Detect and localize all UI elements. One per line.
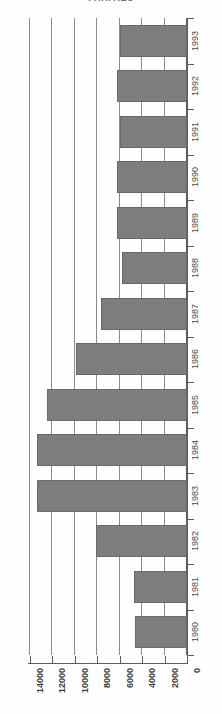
bar-1980[interactable] <box>135 616 187 648</box>
bar-1987[interactable] <box>101 298 187 330</box>
category-tick-end <box>187 655 194 656</box>
value-label-4000: 4000 <box>147 668 159 708</box>
value-label-8000: 8000 <box>102 668 114 708</box>
value-label-0: 0 <box>192 668 204 708</box>
category-axis <box>187 18 188 663</box>
category-label-1982: 1982 <box>190 518 202 564</box>
value-label-12000: 12000 <box>57 668 69 708</box>
bar-row <box>30 25 187 57</box>
gridline-4000 <box>141 18 142 655</box>
bar-row <box>30 161 187 193</box>
category-label-1985: 1985 <box>190 382 202 428</box>
value-tick-14000 <box>30 656 31 664</box>
bar-1983[interactable] <box>37 480 187 512</box>
value-label-14000: 14000 <box>35 668 47 708</box>
gridline-2000 <box>164 18 165 655</box>
gridline-14000 <box>29 18 30 655</box>
bar-row <box>30 70 187 102</box>
category-label-1989: 1989 <box>190 200 202 246</box>
bar-row <box>30 343 187 375</box>
category-label-1991: 1991 <box>190 109 202 155</box>
gridline-12000 <box>51 18 52 655</box>
bar-1993[interactable] <box>120 25 187 57</box>
category-label-1992: 1992 <box>190 63 202 109</box>
bar-row <box>30 616 187 648</box>
chart-root: PARITIES 1993199219911990198919881987198… <box>0 0 222 714</box>
value-tick-2000 <box>165 656 166 664</box>
bar-row <box>30 252 187 284</box>
category-label-1988: 1988 <box>190 245 202 291</box>
bar-row <box>30 571 187 603</box>
bar-1988[interactable] <box>122 252 187 284</box>
value-tick-12000 <box>52 656 53 664</box>
value-label-2000: 2000 <box>170 668 182 708</box>
value-label-10000: 10000 <box>80 668 92 708</box>
bar-1985[interactable] <box>47 389 187 421</box>
bar-1991[interactable] <box>120 116 187 148</box>
value-tick-6000 <box>120 656 121 664</box>
value-tick-0 <box>187 656 188 664</box>
category-label-1993: 1993 <box>190 18 202 64</box>
category-label-1986: 1986 <box>190 336 202 382</box>
bar-1992[interactable] <box>117 70 187 102</box>
bar-1989[interactable] <box>117 207 187 239</box>
bar-1986[interactable] <box>76 343 187 375</box>
bar-1982[interactable] <box>96 525 187 557</box>
bar-row <box>30 434 187 466</box>
category-label-1987: 1987 <box>190 291 202 337</box>
category-label-1980: 1980 <box>190 609 202 655</box>
value-tick-10000 <box>75 656 76 664</box>
bar-row <box>30 207 187 239</box>
bar-row <box>30 389 187 421</box>
value-tick-8000 <box>97 656 98 664</box>
bar-1984[interactable] <box>37 434 187 466</box>
gridline-6000 <box>119 18 120 655</box>
bar-row <box>30 525 187 557</box>
bar-row <box>30 116 187 148</box>
gridline-10000 <box>74 18 75 655</box>
value-label-6000: 6000 <box>125 668 137 708</box>
gridline-8000 <box>96 18 97 655</box>
bar-1981[interactable] <box>134 571 187 603</box>
category-label-1983: 1983 <box>190 473 202 519</box>
category-label-1984: 1984 <box>190 427 202 473</box>
bar-1990[interactable] <box>117 161 187 193</box>
chart-title: PARITIES <box>0 0 222 7</box>
bar-row <box>30 298 187 330</box>
value-tick-4000 <box>142 656 143 664</box>
category-label-1990: 1990 <box>190 154 202 200</box>
category-label-1981: 1981 <box>190 564 202 610</box>
plot-area <box>30 18 187 655</box>
bar-row <box>30 480 187 512</box>
